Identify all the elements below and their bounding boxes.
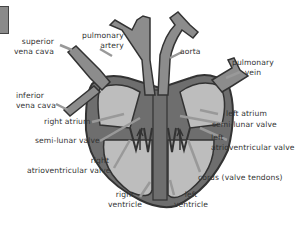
label-cords: cords (valve tendons) — [198, 173, 283, 183]
label-pulmonary-vein: pulmonary vein — [232, 58, 274, 78]
label-left-atrium: left atrium — [226, 109, 267, 119]
label-semi-lunar-valve-right: semi-lunar valve — [35, 136, 100, 146]
label-left-ventricle: left ventricle — [174, 190, 208, 210]
label-aorta: aorta — [180, 47, 201, 57]
label-pulmonary-artery: pulmonary artery — [82, 31, 124, 51]
label-right-ventricle: right ventricle — [108, 190, 142, 210]
label-superior-vena-cava: superior vena cava — [14, 37, 54, 57]
label-semi-lunar-valve-left: semi-lunar valve — [212, 120, 277, 130]
label-left-av-valve: left atrioventricular valve — [211, 133, 295, 153]
label-right-av-valve: right atrioventricular valve — [27, 156, 109, 176]
label-right-atrium: right atrium — [44, 117, 91, 127]
label-inferior-vena-cava: inferior vena cava — [16, 91, 56, 111]
